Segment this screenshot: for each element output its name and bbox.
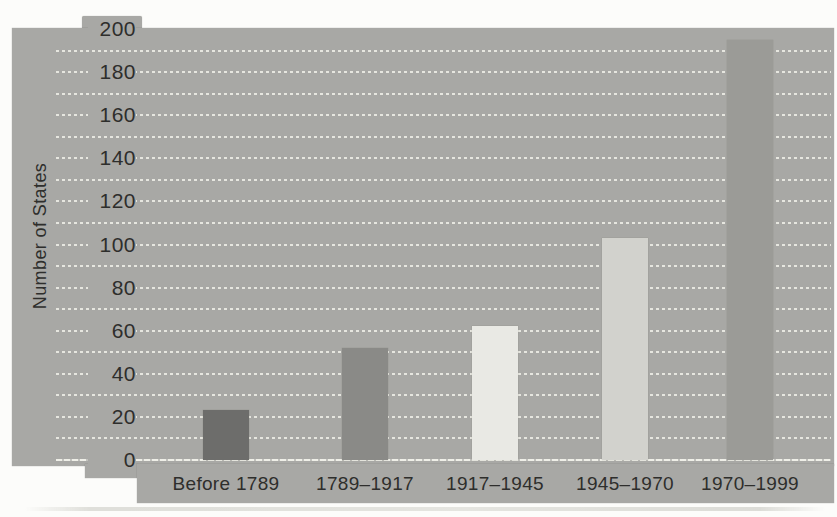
y-tick-label: 160 (88, 103, 136, 127)
x-category-label: Before 1789 (151, 472, 301, 496)
bar-3 (472, 326, 518, 460)
gridline (56, 114, 831, 116)
gridline (56, 136, 831, 138)
gridline (56, 71, 831, 73)
bar-5 (727, 40, 773, 460)
gridline (56, 200, 831, 202)
gridline (56, 287, 831, 289)
y-axis-title: Number of States (30, 163, 51, 309)
y-tick-label: 60 (88, 319, 136, 343)
bar-1 (203, 410, 249, 460)
y-tick-label: 40 (88, 362, 136, 386)
gridline (56, 437, 831, 439)
gridline (56, 459, 831, 461)
gridline (56, 157, 831, 159)
scan-edge-artifact (25, 507, 825, 511)
x-category-label: 1970–1999 (675, 472, 825, 496)
y-tick-label: 20 (88, 405, 136, 429)
gridline (56, 308, 831, 310)
y-tick-label: 80 (88, 276, 136, 300)
x-category-label: 1789–1917 (290, 472, 440, 496)
gridline (56, 179, 831, 181)
y-tick-label: 180 (88, 60, 136, 84)
y-tick-label: 120 (88, 189, 136, 213)
y-tick-label: 200 (88, 17, 136, 41)
bar-2 (342, 348, 388, 460)
gridline (56, 330, 831, 332)
gridline (56, 244, 831, 246)
gridline (56, 50, 831, 52)
bar-chart-figure: 020406080100120140160180200 Before 17891… (0, 0, 837, 517)
y-tick-label: 140 (88, 146, 136, 170)
gridline (56, 222, 831, 224)
gridline (56, 373, 831, 375)
y-tick-label: 100 (88, 233, 136, 257)
gridline (56, 351, 831, 353)
gridline (56, 416, 831, 418)
x-category-label: 1917–1945 (420, 472, 570, 496)
gridline (56, 394, 831, 396)
bar-4 (602, 238, 648, 460)
gridline (56, 265, 831, 267)
gridline (56, 93, 831, 95)
y-tick-label: 0 (88, 448, 136, 472)
